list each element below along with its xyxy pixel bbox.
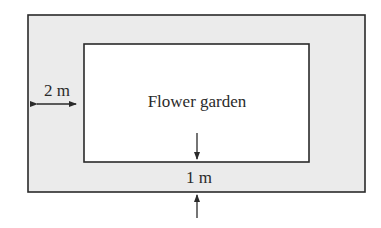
garden-diagram: Flower garden 2 m 1 m: [0, 0, 381, 228]
garden-label: Flower garden: [148, 92, 247, 111]
side-width-label: 2 m: [44, 81, 70, 100]
bottom-width-label: 1 m: [186, 168, 212, 187]
